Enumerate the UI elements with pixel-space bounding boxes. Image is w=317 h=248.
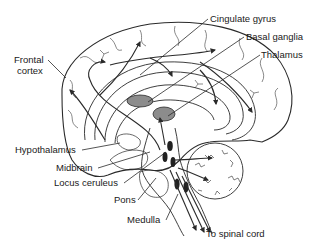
cerebellum bbox=[187, 143, 243, 199]
label-to-spinal-cord: To spinal cord bbox=[206, 228, 265, 239]
label-medulla: Medulla bbox=[127, 214, 160, 225]
label-basal-ganglia: Basal ganglia bbox=[246, 31, 303, 42]
label-midbrain: Midbrain bbox=[56, 162, 92, 173]
label-frontal-cortex-line2: cortex bbox=[14, 65, 44, 76]
nuclei bbox=[163, 141, 189, 193]
label-frontal-cortex: Frontal cortex bbox=[14, 54, 44, 76]
label-pons: Pons bbox=[114, 194, 136, 205]
pathway-arrows bbox=[70, 42, 252, 232]
label-hypothalamus: Hypothalamus bbox=[15, 144, 76, 155]
cingulate-contours bbox=[84, 62, 255, 143]
label-cingulate-gyrus: Cingulate gyrus bbox=[210, 13, 276, 24]
brain-outline bbox=[62, 22, 292, 176]
label-thalamus: Thalamus bbox=[261, 49, 303, 60]
hypothalamus-outline bbox=[117, 134, 140, 150]
brain-pathway-diagram: Frontal cortex Cingulate gyrus Basal gan… bbox=[0, 0, 317, 248]
label-locus-ceruleus: Locus ceruleus bbox=[54, 177, 118, 188]
label-frontal-cortex-line1: Frontal bbox=[14, 54, 44, 65]
